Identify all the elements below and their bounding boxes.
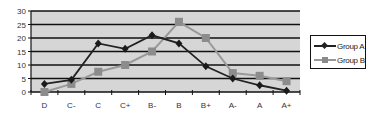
square-marker-icon	[283, 77, 291, 85]
y-tick-label: 5	[22, 75, 27, 84]
x-tick-label: C+	[120, 101, 131, 110]
y-axis: 051015202530	[17, 7, 31, 97]
y-tick-label: 10	[17, 61, 26, 70]
x-tick-label: A-	[229, 101, 237, 110]
square-marker-icon	[40, 88, 48, 96]
y-tick-label: 15	[17, 48, 26, 57]
square-marker-icon	[256, 72, 264, 80]
legend: Group A Group B	[310, 35, 366, 69]
y-tick-label: 25	[17, 21, 26, 30]
x-axis: DC-CC+B-BB+A-AA+	[31, 90, 300, 110]
square-marker-icon	[175, 18, 183, 26]
x-tick-label: B-	[148, 101, 156, 110]
x-tick-label: D	[42, 101, 48, 110]
legend-line-group-a	[314, 45, 336, 47]
x-tick-label: C	[95, 101, 101, 110]
x-tick-label: C-	[67, 101, 76, 110]
x-tick-label: B	[176, 101, 181, 110]
square-marker-icon	[322, 57, 328, 63]
y-tick-label: 30	[17, 7, 26, 16]
legend-item-group-a: Group A	[314, 41, 364, 51]
y-tick-label: 0	[22, 88, 27, 97]
y-tick-label: 20	[17, 34, 26, 43]
legend-label-group-b: Group B	[337, 56, 365, 65]
square-marker-icon	[202, 34, 210, 42]
legend-label-group-a: Group A	[337, 42, 364, 51]
legend-item-group-b: Group B	[314, 55, 365, 65]
x-tick-label: A+	[282, 101, 292, 110]
x-tick-label: A	[257, 101, 263, 110]
square-marker-icon	[121, 61, 129, 69]
legend-line-group-b	[314, 59, 336, 61]
diamond-marker-icon	[321, 42, 328, 49]
square-marker-icon	[94, 68, 102, 76]
x-tick-label: B+	[201, 101, 211, 110]
square-marker-icon	[148, 48, 156, 56]
